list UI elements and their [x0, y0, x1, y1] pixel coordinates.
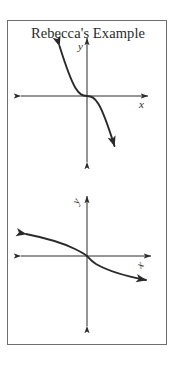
top-graph: y x [8, 34, 168, 184]
bottom-graph: y x [8, 189, 168, 339]
page-canvas: Rebecca's Example [0, 0, 178, 366]
bottom-graph-y-label: y [69, 196, 82, 207]
figure-frame: Rebecca's Example [7, 20, 167, 345]
bottom-graph-curve [26, 234, 146, 280]
top-graph-y-label: y [77, 40, 83, 52]
bottom-graph-x-label: x [133, 259, 146, 271]
top-graph-x-label: x [138, 98, 144, 110]
